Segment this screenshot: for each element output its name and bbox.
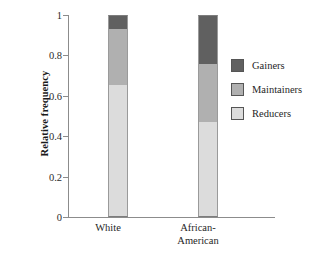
legend-swatch-reducers	[231, 107, 244, 120]
y-tick-label: 1	[57, 10, 62, 21]
y-tick-mark	[63, 55, 68, 56]
y-tick-label: 0.8	[49, 50, 62, 61]
legend-item-maintainers[interactable]: Maintainers	[231, 77, 330, 101]
x-category-label-african-american: African- American	[143, 222, 253, 247]
legend-item-reducers[interactable]: Reducers	[231, 101, 330, 125]
y-tick-label: 0.2	[49, 171, 62, 182]
y-tick-label: 0.6	[49, 90, 62, 101]
bar-african-american[interactable]	[198, 15, 218, 217]
y-tick-mark	[63, 177, 68, 178]
x-axis-line	[68, 217, 275, 218]
legend-label: Gainers	[252, 60, 285, 71]
bar-segment-reducers[interactable]	[108, 85, 128, 217]
bar-segment-reducers[interactable]	[198, 122, 218, 217]
y-tick-label: 0	[57, 212, 62, 223]
y-tick-mark	[63, 136, 68, 137]
y-tick-label: 0.4	[49, 131, 62, 142]
y-tick-mark	[63, 15, 68, 16]
y-tick-mark	[63, 96, 68, 97]
stacked-bar-chart: Relative frequency 0 0.2 0.4 0.6 0.8 1	[0, 0, 330, 253]
bar-segment-maintainers[interactable]	[198, 64, 218, 122]
y-axis-label: Relative frequency	[39, 29, 50, 199]
bar-segment-gainers[interactable]	[108, 15, 128, 29]
y-tick-mark	[63, 217, 68, 218]
legend-item-gainers[interactable]: Gainers	[231, 53, 330, 77]
legend-swatch-gainers	[231, 59, 244, 72]
y-axis-line	[68, 15, 69, 218]
bar-segment-maintainers[interactable]	[108, 29, 128, 85]
bar-white[interactable]	[108, 15, 128, 217]
legend-label: Reducers	[252, 108, 291, 119]
legend: Gainers Maintainers Reducers	[231, 53, 330, 125]
bar-segment-gainers[interactable]	[198, 15, 218, 64]
legend-label: Maintainers	[252, 84, 302, 95]
legend-swatch-maintainers	[231, 83, 244, 96]
